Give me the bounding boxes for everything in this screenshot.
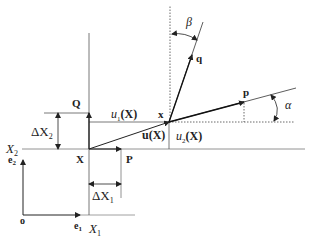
alpha-arc — [271, 95, 277, 121]
beta-label: β — [185, 15, 192, 29]
vector-p-label: p — [243, 86, 249, 98]
alpha-label: α — [285, 98, 292, 112]
dx2-label: ΔX2 — [31, 124, 53, 141]
e1-label: e1 — [74, 220, 82, 233]
angle-arcs — [172, 34, 277, 121]
labels: o e1 X1 e2 X2 X P Q ΔX2 ΔX1 u1(X) u2(X) … — [5, 15, 292, 238]
origin-label: o — [20, 215, 25, 226]
point-Q-label: Q — [72, 97, 81, 109]
beta-arc — [172, 34, 197, 40]
x1-axis-label: X1 — [88, 221, 101, 238]
u1-label: u1(X) — [111, 107, 137, 123]
x2-axis-label: X2 — [5, 141, 18, 158]
dx1-label: ΔX1 — [92, 188, 114, 205]
vector-p — [169, 102, 244, 122]
deformation-diagram: o e1 X1 e2 X2 X P Q ΔX2 ΔX1 u1(X) u2(X) … — [0, 0, 318, 243]
basis-axes — [23, 160, 135, 215]
point-P-label: P — [126, 153, 133, 165]
u-vector-label: u(X) — [142, 128, 165, 142]
point-X-label: X — [76, 153, 84, 165]
point-x-label: x — [158, 108, 164, 120]
vector-q — [169, 55, 192, 122]
vector-q-label: q — [196, 52, 203, 64]
u2-label: u2(X) — [176, 129, 202, 145]
